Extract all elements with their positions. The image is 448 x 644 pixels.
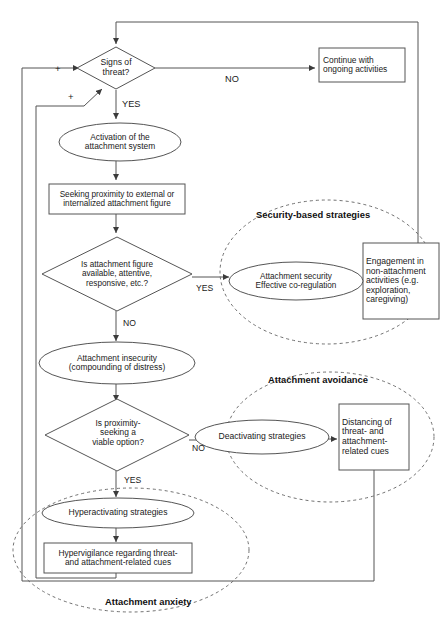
seeking-proximity-shape xyxy=(49,184,185,214)
hypervigilance-shape xyxy=(44,543,192,573)
attachment-security-shape xyxy=(229,262,363,300)
deactivating-strategies-shape xyxy=(195,420,329,454)
is-proximity-seeking-shape xyxy=(45,399,189,471)
is-attachment-figure-shape xyxy=(42,237,192,311)
distancing-threat-shape xyxy=(339,404,409,470)
hyperactivating-strategies-shape xyxy=(42,498,194,528)
activation-attachment-shape xyxy=(59,123,181,161)
edge-inner-loop-into-threat-lower xyxy=(84,89,102,106)
continue-ongoing-shape xyxy=(319,48,405,82)
flowchart-svg xyxy=(0,0,448,644)
signs-of-threat-shape xyxy=(77,47,155,89)
flowchart-canvas: Signs of threat? Continue with ongoing a… xyxy=(0,0,448,644)
attachment-insecurity-shape xyxy=(39,342,195,384)
engagement-nonattachment-shape xyxy=(363,243,439,319)
